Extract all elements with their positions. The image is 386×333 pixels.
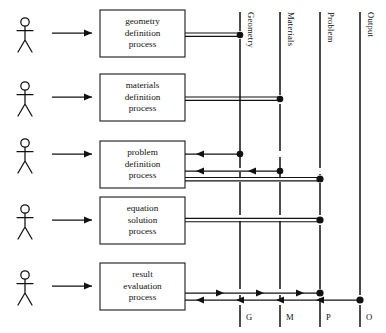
process-box-equation-solution-line1: equation: [127, 203, 159, 213]
message-result-process-to-problem-arrowhead-2: [256, 290, 264, 297]
message-geometry-process-to-geometry: [185, 33, 240, 36]
process-box-problem-definition-line3: process: [129, 170, 157, 180]
message-materials-process-to-materials: [185, 97, 280, 100]
message-materials-to-problem-process: [185, 168, 280, 175]
message-equation-process-to-problem: [185, 218, 320, 221]
actor-equation: [17, 205, 33, 239]
process-box-result-evaluation[interactable]: result evaluation process: [100, 263, 185, 310]
lifeline-geometry-short-label: G: [246, 312, 252, 322]
process-box-geometry-definition[interactable]: geometry definition process: [100, 10, 185, 57]
process-box-equation-solution-line2: solution: [128, 215, 158, 225]
actor-result-body: [17, 279, 33, 305]
message-actor-to-equation-process: [52, 217, 92, 224]
actor-result-head: [21, 271, 29, 279]
lifeline-problem-short-label: P: [326, 312, 331, 322]
message-result-process-to-problem: [185, 290, 320, 297]
actor-problem: [17, 139, 33, 173]
actor-materials-head: [21, 82, 29, 90]
process-box-result-evaluation-line2: evaluation: [123, 281, 162, 291]
message-actor-to-geometry-process: [52, 30, 92, 37]
actor-problem-body: [17, 147, 33, 173]
actor-materials: [17, 82, 33, 116]
process-box-equation-solution[interactable]: equation solution process: [100, 197, 185, 244]
lifeline-problem: Problem P: [316, 12, 336, 327]
message-result-process-to-problem-arrowhead-3: [296, 290, 304, 297]
diagram-svg: Geometry G Materials M Problem P Output …: [0, 0, 386, 333]
message-materials-to-problem-process-arrowhead: [196, 168, 204, 175]
process-box-materials-definition[interactable]: materials definition process: [100, 74, 185, 121]
lifeline-problem-dot-row3: [316, 175, 323, 182]
message-problem-process-to-problem: [185, 178, 320, 181]
process-box-geometry-definition-line1: geometry: [125, 16, 160, 26]
message-materials-to-problem-process-arrowhead-mid: [248, 168, 256, 175]
message-actor-to-result-process-arrowhead: [84, 283, 92, 290]
message-result-process-to-problem-arrowhead-1: [216, 290, 224, 297]
process-box-geometry-definition-line3: process: [129, 39, 157, 49]
lifeline-materials-short-label: M: [286, 312, 294, 322]
process-box-geometry-definition-line2: definition: [125, 28, 161, 38]
process-box-result-evaluation-line3: process: [129, 292, 157, 302]
process-box-materials-definition-line3: process: [129, 103, 157, 113]
actor-geometry: [17, 18, 33, 52]
message-geometry-to-problem-process: [185, 151, 240, 158]
actor-equation-head: [21, 205, 29, 213]
sequence-diagram-canvas: Geometry G Materials M Problem P Output …: [0, 0, 386, 333]
process-box-problem-definition[interactable]: problem definition process: [100, 141, 185, 188]
process-box-equation-solution-line3: process: [129, 226, 157, 236]
lifeline-materials: Materials M: [277, 12, 296, 327]
message-output-to-result-process: [185, 297, 360, 304]
lifeline-problem-label: Problem: [326, 12, 336, 43]
actor-equation-body: [17, 213, 33, 239]
actor-geometry-head: [21, 18, 29, 26]
actor-materials-body: [17, 90, 33, 116]
lifeline-output-label: Output: [366, 12, 376, 37]
lifeline-materials-label: Materials: [286, 12, 296, 47]
message-output-to-result-process-arrowhead-1: [196, 297, 204, 304]
lifeline-problem-dot-row4: [316, 216, 323, 223]
process-box-materials-definition-line1: materials: [126, 80, 160, 90]
message-actor-to-materials-process-arrowhead: [84, 94, 92, 101]
actor-result: [17, 271, 33, 305]
lifeline-output-short-label: O: [366, 312, 372, 322]
actor-problem-head: [21, 139, 29, 147]
process-box-result-evaluation-line1: result: [132, 269, 153, 279]
actor-geometry-body: [17, 26, 33, 52]
lifeline-output: Output O: [356, 12, 376, 327]
process-box-problem-definition-line1: problem: [127, 147, 158, 157]
message-geometry-to-problem-process-arrowhead: [196, 151, 204, 158]
message-actor-to-geometry-process-arrowhead: [84, 30, 92, 37]
process-box-materials-definition-line2: definition: [125, 92, 161, 102]
process-box-problem-definition-line2: definition: [125, 159, 161, 169]
message-actor-to-result-process: [52, 283, 92, 290]
lifeline-geometry-label: Geometry: [246, 12, 256, 48]
message-actor-to-problem-process-arrowhead: [84, 151, 92, 158]
message-actor-to-equation-process-arrowhead: [84, 217, 92, 224]
message-actor-to-problem-process: [52, 151, 92, 158]
message-actor-to-materials-process: [52, 94, 92, 101]
